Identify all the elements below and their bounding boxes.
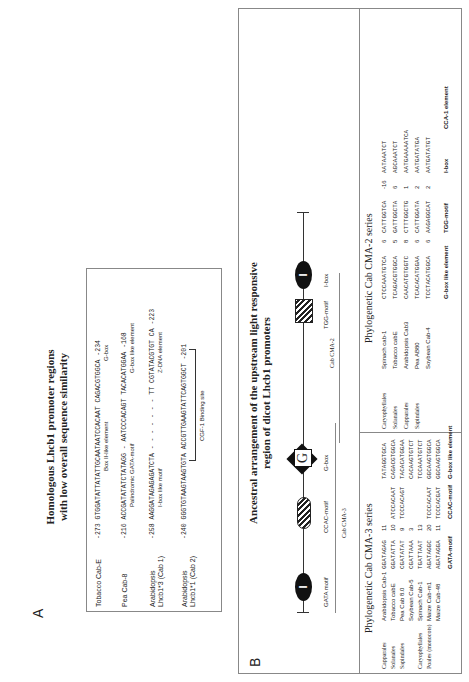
gata-seq: CGATATAT <box>399 540 406 569</box>
species-label: Pea Cab 8.0 <box>399 588 405 621</box>
spacer-count: 6 <box>414 240 420 243</box>
footer-label: TGG-motif <box>443 203 449 233</box>
spacer-count: 6 <box>425 240 431 243</box>
gbox-seq: TCCTACATGGCA <box>425 256 432 299</box>
species-label: Maize Cab-48 <box>435 584 441 621</box>
order-label: Solanales <box>390 646 396 669</box>
spacer-count: 3 <box>408 528 414 531</box>
ccac-seq: TCCCACAGT <box>399 487 406 519</box>
gata-seq: TGATTAAT <box>417 540 424 569</box>
spacer-count: 11 <box>435 525 441 531</box>
ibox-seq: AATGAAAAATCA <box>403 130 410 173</box>
gbox-seq: CAGACGTGGCA <box>390 439 397 479</box>
order-label: Caryophyllales <box>417 633 423 669</box>
cgf1-bracket <box>189 349 196 461</box>
order-label: Sapindales <box>399 643 405 669</box>
tgg-seq: CTTTGGCTG <box>403 201 410 233</box>
spacer-count: 10 <box>390 524 396 531</box>
spacer-count: 8 <box>403 240 409 243</box>
tgg-motif-icon <box>295 299 313 323</box>
figure: A Homologous Lhcb1 promoter regions with… <box>0 0 469 682</box>
spacer-count: 1 <box>403 186 409 189</box>
order-label: Capparales <box>381 642 387 669</box>
cma3-table: CapparalesArabidopsis Cab-1GGATAGAG11TAT… <box>381 435 461 669</box>
cma2-title: Phylogenetic Cab CMA-2 series <box>363 213 374 343</box>
spacer-count: 9 <box>399 528 405 531</box>
panel-a-title: Homologous Lhcb1 promoter regions with l… <box>44 322 70 552</box>
spacer-count: -16 <box>381 180 387 189</box>
spacer-count: 11 <box>381 525 387 531</box>
ccac-motif-icon <box>297 497 311 529</box>
gbox-seq: GGCAAGTGGCA <box>426 439 433 479</box>
tgg-seq: CATTGGTCA <box>381 201 388 233</box>
order-label: Solanales <box>392 406 398 429</box>
gata-seq: CGATTAAA <box>408 540 415 569</box>
spacer-count: 13 <box>417 524 423 531</box>
ibox-seq: AGCAAATCT <box>392 141 399 173</box>
order-label: Capparales <box>403 402 409 429</box>
footer-label: CCA-1 element <box>443 86 449 129</box>
gata-seq: GGATATTA <box>390 540 397 569</box>
spacer-count: 20 <box>426 524 432 531</box>
species-label: Soybean Cab-4 <box>425 327 431 369</box>
species-label: Arabidopsis Cab-1 <box>381 572 387 621</box>
ibox-seq: AATAAATCT <box>381 141 388 173</box>
ccac-seq: ATCCACAAT <box>390 487 397 519</box>
gata-seq: GGATAGAG <box>381 540 388 569</box>
panel-a-box: Tobacco Cab-E -273 GTGGATATTATATTGCAATAA… <box>86 268 222 612</box>
species-label: Tobacco cabE <box>392 331 398 369</box>
gbox-seq: TCCAAATGTCT <box>417 439 424 479</box>
gbox-seq: TCACACATGGAA <box>414 256 421 299</box>
species-label: Tobacco cabE <box>390 583 396 621</box>
spacer-count: 6 <box>381 240 387 243</box>
ibox-seq: AATGATATGA <box>414 137 421 173</box>
tgg-seq: AAGAGGCAT <box>425 201 432 233</box>
panel-a-label: A <box>30 609 46 618</box>
ibox-seq: AATGATATGT <box>425 137 432 173</box>
tgg-seq: CATTGGATA <box>414 201 421 233</box>
gata-seq: AGATAGGA <box>435 540 442 569</box>
i-box-icon: I <box>295 261 312 289</box>
spacer-count: 6 <box>392 186 398 189</box>
species-label: Pea AB80 <box>414 342 420 369</box>
gbox-seq: TACACATGGAA <box>399 439 406 479</box>
footer-label: GATA-motif <box>447 536 453 569</box>
order-label: Poales (monocots) <box>426 625 432 670</box>
species-label: Spinach Cab-1 <box>417 581 423 621</box>
gbox-seq: TCAGACGTGGCA <box>392 256 399 299</box>
gbox-seq: CACAAGTGTCT <box>408 439 415 479</box>
tgg-seq: GATTGGCTA <box>392 201 399 233</box>
gata-seq: AGATAGGC <box>426 540 433 569</box>
ccac-seq: TCCCACAAT <box>426 487 433 519</box>
species-label: Maize Cab-m1 <box>426 582 432 621</box>
spacer-count: 5 <box>392 240 398 243</box>
cma3-title: Phylogenetic Cab CMA-3 series <box>363 503 374 633</box>
footer-label: CCAC-motif <box>447 485 453 519</box>
order-label: Sapindales <box>414 403 420 429</box>
footer-label: G-box like element <box>447 426 453 479</box>
gbox-seq: CTCCAAATGTCA <box>381 256 388 299</box>
ccac-seq: TCCCACGAT <box>435 487 442 519</box>
species-label: Spinach cab-1 <box>381 331 387 369</box>
gbox-seq: GGCAAGTGGCA <box>435 439 442 479</box>
footer-label: I-box <box>443 159 449 173</box>
ancestral-title: Ancestral arrangement of the upstream li… <box>247 203 273 583</box>
spacer-count: 2 <box>425 186 431 189</box>
g-box-icon: G <box>294 449 312 467</box>
gbox-seq: CAACATGTGGTC <box>403 256 410 299</box>
footer-label: G-box like element <box>443 246 449 299</box>
gata-motif-icon: I <box>295 573 312 601</box>
gbox-seq: TATAGGTGCA <box>381 443 388 479</box>
species-label: Soybean Cab-5 <box>408 579 414 621</box>
cma2-table: CaryophyllalesSpinach cab-1CTCCAAATGTCA6… <box>381 13 461 429</box>
spacer-count: 2 <box>414 186 420 189</box>
species-label: Arabidopsis Cab3 <box>403 322 409 369</box>
panel-b: B Ancestral arrangement of the upstream … <box>238 8 462 674</box>
order-label: Caryophyllales <box>381 393 387 429</box>
